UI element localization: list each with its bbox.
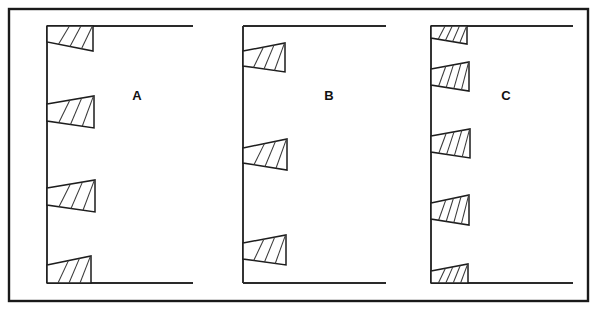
panel-label-c: C — [501, 88, 511, 103]
diagram-svg: ABC — [0, 0, 598, 314]
panel-label-a: A — [132, 88, 142, 103]
figure-canvas: ABC — [0, 0, 598, 314]
panel-label-b: B — [324, 88, 333, 103]
